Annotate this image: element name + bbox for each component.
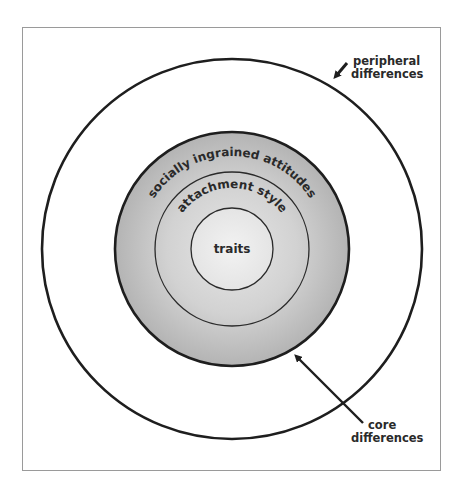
traits-label: traits <box>214 242 251 256</box>
core-callout-line1: core <box>368 418 396 432</box>
peripheral-callout-line1: peripheral <box>353 54 420 68</box>
concentric-diagram: socially ingrained attitudes attachment … <box>0 0 463 490</box>
peripheral-callout-line2: differences <box>351 67 424 81</box>
core-callout-line2: differences <box>351 431 424 445</box>
